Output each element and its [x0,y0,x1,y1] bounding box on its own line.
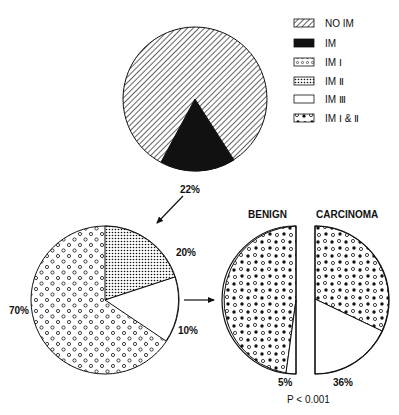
benign-slice-im-i-ii [224,226,296,373]
legend-label: NO IM [325,18,354,29]
carcinoma-pct: 36% [333,377,353,388]
legend-label: IM Ⅱ [325,76,344,87]
label-10pct: 10% [178,325,198,336]
label-top-pct: 22% [180,184,200,195]
pie-im-types [31,226,179,374]
legend-swatch-circles [294,58,314,66]
p-value: P < 0.001 [287,394,330,405]
legend-label: IM Ⅰ [325,57,342,68]
carcinoma-title: CARCINOMA [316,209,378,220]
label-70pct: 70% [9,305,29,316]
legend-label: IM Ⅰ & Ⅱ [325,113,359,124]
pie-carcinoma [315,226,389,374]
legend-swatch-finedots [294,77,314,85]
benign-title: BENIGN [248,209,287,220]
benign-pct: 5% [278,377,293,388]
legend-swatch-blank [294,95,314,103]
arrow-down-left [157,196,183,223]
label-20pct: 20% [176,247,196,258]
legend-swatch-hatch [294,19,314,27]
legend-label: IM [325,38,336,49]
legend-swatch-solid [294,39,314,47]
legend: NO IM IM IM Ⅰ IM Ⅱ IM Ⅲ IM Ⅰ & Ⅱ [294,18,359,124]
pie-benign [222,226,296,374]
legend-swatch-mixed [294,114,314,122]
legend-label: IM Ⅲ [325,94,346,105]
figure: 22% 20% 10% 70% BENIGN 5% CARCINOMA 36% … [0,0,399,415]
pie-overall [123,27,267,171]
